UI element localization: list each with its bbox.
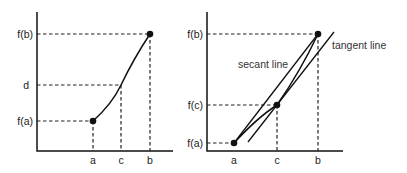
left-point-b	[147, 31, 154, 38]
left-label-d: d	[23, 79, 29, 91]
left-label-b: b	[147, 154, 153, 166]
left-point-a	[90, 118, 97, 125]
right-label-a: a	[231, 154, 237, 166]
right-diagram: f(b) f(c) f(a) a c b secant line tangent…	[187, 12, 386, 166]
right-point-a	[231, 140, 238, 147]
right-point-b	[315, 31, 322, 38]
left-diagram: f(b) d f(a) a c b	[17, 12, 173, 166]
secant-line-label: secant line	[238, 58, 288, 70]
right-axes	[207, 12, 343, 151]
tangent-line-label: tangent line	[332, 39, 386, 51]
left-label-fa: f(a)	[17, 115, 33, 127]
right-label-c: c	[274, 154, 279, 166]
secant-line	[234, 34, 318, 143]
right-label-fc: f(c)	[188, 99, 203, 111]
left-label-c: c	[118, 154, 123, 166]
right-point-c	[274, 102, 281, 109]
right-label-b: b	[315, 154, 321, 166]
left-label-a: a	[90, 154, 96, 166]
right-label-fa: f(a)	[187, 137, 203, 149]
right-label-fb: f(b)	[187, 28, 203, 40]
mean-value-theorem-diagrams: f(b) d f(a) a c b f(b) f(c) f(a) a c b s…	[0, 0, 407, 173]
left-label-fb: f(b)	[17, 28, 33, 40]
left-function-curve	[93, 34, 150, 121]
tangent-line	[248, 32, 334, 142]
